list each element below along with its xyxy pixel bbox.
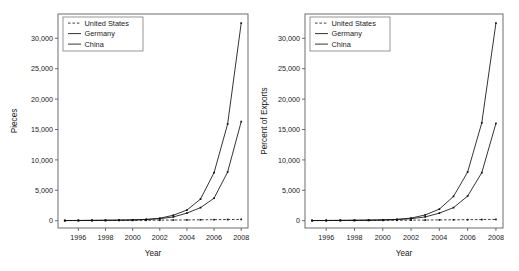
x-tick-label: 1996 (70, 233, 86, 242)
data-point-marker (118, 219, 120, 221)
data-point-marker (439, 219, 441, 221)
x-tick-label: 2004 (431, 233, 447, 242)
series-line-china (312, 23, 496, 220)
data-point-marker (481, 172, 483, 174)
data-point-marker (410, 219, 412, 221)
legend-label-united-states: United States (332, 19, 377, 28)
x-tick-label: 2004 (179, 233, 195, 242)
data-point-marker (91, 220, 93, 222)
chart-panel-left: 05,00010,00015,00020,00025,00030,0001996… (0, 0, 259, 271)
data-point-marker (132, 219, 134, 221)
data-point-marker (481, 122, 483, 124)
y-tick-label: 5,000 (35, 186, 53, 195)
y-tick-label: 0 (296, 216, 300, 225)
data-point-marker (439, 212, 441, 214)
legend-label-germany: Germany (332, 29, 363, 38)
data-point-marker (186, 209, 188, 211)
y-tick-label: 10,000 (278, 156, 300, 165)
x-tick-label: 2000 (375, 233, 391, 242)
data-point-marker (424, 216, 426, 218)
data-point-marker (159, 217, 161, 219)
data-point-marker (227, 219, 229, 221)
x-tick-label: 2000 (125, 233, 141, 242)
data-point-marker (354, 219, 356, 221)
y-tick-label: 15,000 (31, 125, 53, 134)
data-point-marker (439, 208, 441, 210)
legend-label-germany: Germany (85, 29, 116, 38)
data-point-marker (453, 207, 455, 209)
y-tick-label: 30,000 (31, 34, 53, 43)
x-tick-label: 2006 (460, 233, 476, 242)
data-point-marker (227, 171, 229, 173)
x-tick-label: 1996 (318, 233, 334, 242)
data-point-marker (424, 214, 426, 216)
data-point-marker (467, 195, 469, 197)
data-point-marker (340, 220, 342, 222)
data-point-marker (240, 121, 242, 123)
data-point-marker (200, 207, 202, 209)
y-tick-label: 15,000 (278, 125, 300, 134)
x-tick-label: 2006 (206, 233, 222, 242)
x-axis-title: Year (145, 249, 162, 258)
data-point-marker (78, 220, 80, 222)
legend-label-china: China (332, 40, 352, 49)
x-tick-label: 2002 (152, 233, 168, 242)
data-point-marker (186, 212, 188, 214)
x-axis-title: Year (396, 249, 413, 258)
chart-panel-right: 05,00010,00015,00020,00025,00030,0001996… (259, 0, 518, 271)
y-tick-label: 25,000 (278, 64, 300, 73)
data-point-marker (200, 198, 202, 200)
data-point-marker (467, 219, 469, 221)
data-point-marker (213, 172, 215, 174)
data-point-marker (453, 196, 455, 198)
data-point-marker (467, 171, 469, 173)
data-point-marker (424, 219, 426, 221)
y-axis-title: Percent of Exports (260, 87, 269, 154)
y-tick-label: 5,000 (282, 186, 300, 195)
data-point-marker (382, 219, 384, 221)
data-point-marker (325, 220, 327, 222)
data-point-marker (173, 214, 175, 216)
chart-right-svg: 05,00010,00015,00020,00025,00030,0001996… (259, 0, 518, 271)
data-point-marker (200, 219, 202, 221)
figure-container: 05,00010,00015,00020,00025,00030,0001996… (0, 0, 519, 271)
x-tick-label: 2008 (233, 233, 249, 242)
y-tick-label: 10,000 (31, 156, 53, 165)
y-axis-title: Pieces (10, 109, 19, 134)
data-point-marker (495, 219, 497, 221)
data-point-marker (213, 219, 215, 221)
y-tick-label: 20,000 (31, 95, 53, 104)
data-point-marker (495, 123, 497, 125)
y-tick-label: 30,000 (278, 34, 300, 43)
data-point-marker (240, 219, 242, 221)
data-point-marker (495, 22, 497, 24)
legend-label-china: China (85, 40, 105, 49)
data-point-marker (64, 220, 66, 222)
x-tick-label: 1998 (98, 233, 114, 242)
data-point-marker (481, 219, 483, 221)
data-point-marker (368, 219, 370, 221)
data-point-marker (453, 219, 455, 221)
chart-left-svg: 05,00010,00015,00020,00025,00030,0001996… (0, 0, 259, 271)
data-point-marker (159, 219, 161, 221)
data-point-marker (105, 219, 107, 221)
x-tick-label: 2008 (488, 233, 504, 242)
legend-label-united-states: United States (85, 19, 130, 28)
data-point-marker (240, 22, 242, 24)
data-point-marker (410, 217, 412, 219)
data-point-marker (213, 197, 215, 199)
y-tick-label: 20,000 (278, 95, 300, 104)
data-point-marker (311, 220, 313, 222)
series-line-china (65, 23, 241, 220)
data-point-marker (396, 219, 398, 221)
x-tick-label: 2002 (403, 233, 419, 242)
data-point-marker (186, 219, 188, 221)
data-point-marker (173, 219, 175, 221)
y-tick-label: 0 (49, 216, 53, 225)
data-point-marker (227, 123, 229, 125)
data-point-marker (173, 216, 175, 218)
x-tick-label: 1998 (347, 233, 363, 242)
y-tick-label: 25,000 (31, 64, 53, 73)
data-point-marker (145, 219, 147, 221)
